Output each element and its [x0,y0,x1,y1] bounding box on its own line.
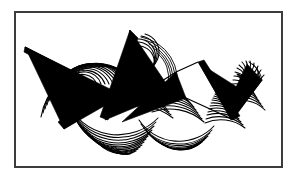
figure-container: Damped zigzag ribbon with concentric arc… [0,0,295,179]
line-art-figure: Damped zigzag ribbon with concentric arc… [0,0,295,179]
